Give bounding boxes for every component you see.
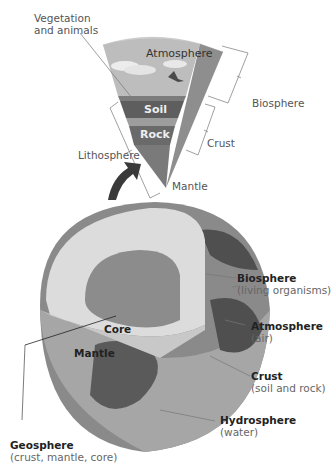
- atmosphere-title: Atmosphere: [251, 320, 323, 332]
- crust-callout: Crust: [207, 137, 235, 149]
- hydrosphere-title: Hydrosphere: [220, 414, 296, 426]
- globe-mantle-label: Mantle: [74, 347, 115, 359]
- crust-label: Crust (soil and rock): [251, 370, 326, 394]
- atmosphere-sub: (air): [251, 332, 323, 344]
- core-label: Core: [104, 323, 131, 335]
- wedge-rock-label: Rock: [140, 129, 170, 141]
- atmosphere-label: Atmosphere (air): [251, 320, 323, 344]
- wedge-atmosphere-label: Atmosphere: [146, 48, 213, 60]
- geosphere-sub: (crust, mantle, core): [10, 451, 117, 463]
- hydrosphere-sub: (water): [220, 426, 296, 438]
- biosphere-label: Biosphere (living organisms): [237, 272, 331, 296]
- wedge-soil-label: Soil: [144, 104, 167, 116]
- crust-sub: (soil and rock): [251, 382, 326, 394]
- mantle-callout: Mantle: [172, 180, 208, 192]
- zoom-arrow-icon: [108, 162, 141, 200]
- lithosphere-callout: Lithosphere: [78, 149, 140, 161]
- crust-title: Crust: [251, 370, 326, 382]
- vegetation-label-line1: Vegetation: [34, 12, 98, 24]
- biosphere-sub: (living organisms): [237, 284, 331, 296]
- geosphere-label: Geosphere (crust, mantle, core): [10, 439, 117, 463]
- biosphere-callout: Biosphere: [252, 97, 304, 109]
- geosphere-title: Geosphere: [10, 439, 117, 451]
- hydrosphere-label: Hydrosphere (water): [220, 414, 296, 438]
- vegetation-label: Vegetation and animals: [34, 12, 98, 36]
- vegetation-label-line2: and animals: [34, 24, 98, 36]
- biosphere-title: Biosphere: [237, 272, 331, 284]
